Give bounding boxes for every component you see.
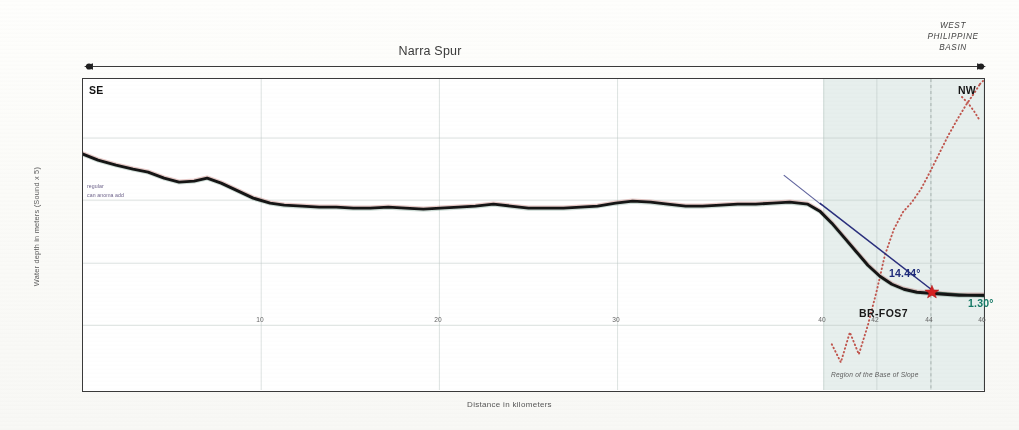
corner-label-se: SE	[89, 84, 104, 96]
x-tick-label: 30	[601, 316, 631, 323]
basin-label-line-2: PHILIPPINE	[907, 31, 999, 42]
basin-label-line-1: WEST	[907, 20, 999, 31]
x-tick-label: 10	[245, 316, 275, 323]
y-axis-title: Water depth in meters (Sound x 5)	[31, 162, 42, 292]
y-axis-title-wrapper: Water depth in meters (Sound x 5)	[24, 175, 44, 295]
annotation-left-note-2: can anoma add	[87, 192, 124, 198]
x-tick-label: 40	[807, 316, 837, 323]
y-axis-title-line-1: Water depth in meters (Sound x 5)	[32, 167, 41, 286]
x-tick-label: 42	[860, 316, 890, 323]
span-title-narra-spur: Narra Spur	[300, 44, 560, 58]
x-axis-title: Distance in kilometers	[0, 400, 1019, 409]
x-tick-label: 46	[967, 316, 997, 323]
plot-canvas	[83, 79, 984, 390]
x-tick-label: 20	[423, 316, 453, 323]
x-tick-label: 44	[914, 316, 944, 323]
annotation-steep-slope-angle: 14.44°	[889, 267, 921, 279]
basin-label-line-3: BASIN	[907, 42, 999, 53]
annotation-region-of-base-of-slope: Region of the Base of Slope	[831, 371, 919, 378]
annotation-gentle-slope-angle: 1.30°	[968, 297, 994, 309]
plot-area: SE NW 14.44° 1.30° BR-FOS7 Region of the…	[82, 78, 985, 392]
corner-label-nw: NW	[958, 84, 976, 96]
annotation-left-note-1: regular	[87, 183, 104, 189]
west-philippine-basin-label: WEST PHILIPPINE BASIN	[907, 20, 999, 53]
span-extent-arrow	[84, 62, 986, 71]
bathymetric-profile-figure: Narra Spur WEST PHILIPPINE BASIN Water d…	[0, 0, 1019, 430]
